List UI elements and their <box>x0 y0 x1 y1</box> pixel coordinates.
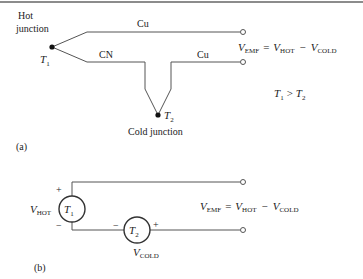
plus-sign-cold: + <box>153 219 159 230</box>
cu-label-top: Cu <box>137 18 149 29</box>
temperature-condition: T1>T2 <box>274 87 306 102</box>
voltage-source-hot <box>59 196 85 222</box>
thermocouple-diagram: Hot junction T1 Cu CN Cu T2 Cold junctio… <box>0 0 363 279</box>
v-hot-label: VHOT <box>30 203 52 217</box>
cold-junction-label: Cold junction <box>128 126 183 137</box>
equation-a: VEMF=VHOT−VCOLD <box>238 41 337 55</box>
terminal-top <box>241 30 246 35</box>
hot-junction-label-line2: junction <box>15 23 49 34</box>
figure-a: Hot junction T1 Cu CN Cu T2 Cold junctio… <box>15 10 337 153</box>
t1-label: T1 <box>40 53 50 68</box>
wire-top-b <box>72 182 240 196</box>
cn-label: CN <box>99 49 113 60</box>
equation-b: VEMF=VHOT−VCOLD <box>200 200 299 214</box>
voltage-source-cold <box>124 217 150 243</box>
cold-junction-dot <box>155 112 160 117</box>
hot-junction-dot <box>49 44 54 49</box>
minus-sign-hot: − <box>56 220 62 231</box>
figure-b: T1 T2 + − − + VHOT VCOLD VEMF=VHOT−VCOLD… <box>30 180 299 275</box>
minus-sign-cold: − <box>113 220 119 231</box>
wire-cn <box>52 47 240 115</box>
terminal-bottom-b <box>241 228 246 233</box>
plus-sign-hot: + <box>56 184 62 195</box>
cu-label-bottom: Cu <box>197 49 209 60</box>
terminal-bottom <box>241 60 246 65</box>
wire-cu-top <box>52 32 240 47</box>
caption-b: (b) <box>34 262 46 274</box>
hot-junction-label-line1: Hot <box>18 10 33 21</box>
caption-a: (a) <box>16 141 27 153</box>
v-cold-label: VCOLD <box>133 246 159 260</box>
terminal-top-b <box>241 180 246 185</box>
t2-label: T2 <box>164 109 174 124</box>
